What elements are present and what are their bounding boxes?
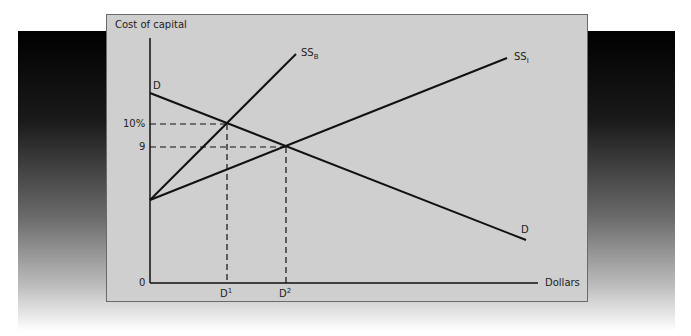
d1-base: D: [220, 288, 228, 299]
ssb-label-base: SS: [301, 47, 314, 58]
y-axis-label: Cost of capital: [115, 19, 187, 30]
ssi-label-base: SS: [514, 51, 527, 62]
x-tick-d2: D2: [279, 287, 291, 299]
ssb-label: SSB: [301, 47, 319, 61]
supply-curve-ssi: [150, 58, 507, 200]
origin-label: 0: [139, 277, 145, 288]
x-axis-label: Dollars: [545, 277, 580, 288]
x-tick-d1: D1: [220, 287, 232, 299]
supply-curve-ssb: [150, 54, 296, 200]
y-tick-9: 9: [139, 141, 145, 152]
chart-plot: [0, 0, 691, 336]
y-tick-10pct: 10%: [123, 118, 145, 129]
d2-sup: 2: [287, 287, 291, 295]
demand-label-top: D: [153, 80, 161, 91]
ssi-label: SSI: [514, 51, 529, 65]
d2-base: D: [279, 288, 287, 299]
d1-sup: 1: [228, 287, 232, 295]
demand-label-bottom: D: [521, 224, 529, 235]
ssb-label-sub: B: [314, 53, 319, 61]
ssi-label-sub: I: [527, 57, 529, 65]
demand-curve-d: [150, 93, 526, 240]
